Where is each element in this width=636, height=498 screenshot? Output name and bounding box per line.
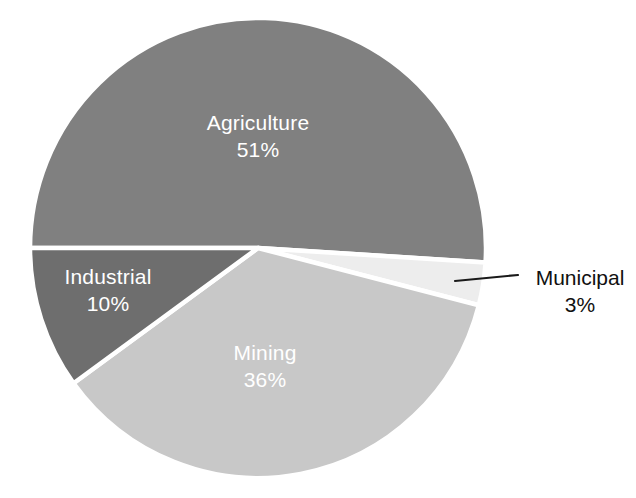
pie-chart-canvas [0,0,636,498]
pie-chart: Agriculture 51% Industrial 10% Mining 36… [0,0,636,498]
pie-slice-group [30,18,486,478]
